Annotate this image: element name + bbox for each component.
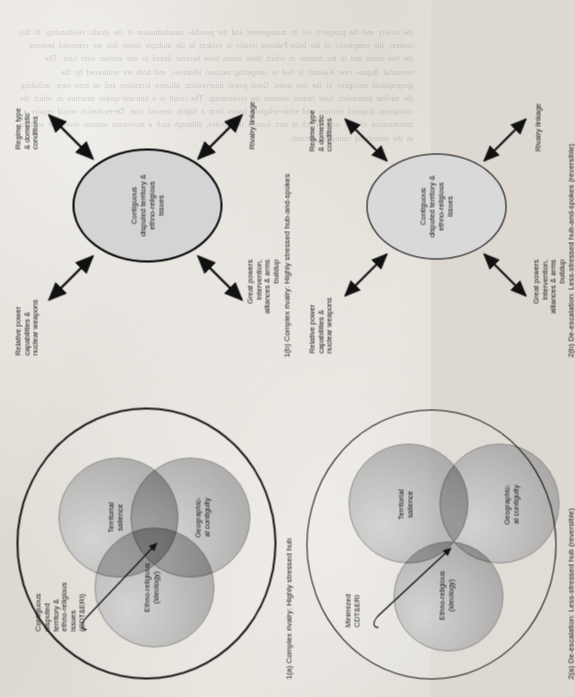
spoke-label-great-powers: Great powers intervention, alliances & a…	[246, 259, 281, 357]
cdt-leader-line	[300, 389, 570, 689]
panel-1a-hub-label: Contiguous disputed territory & ethno-re…	[34, 501, 87, 631]
panel-2a-caption: 2(a) De-escalation: Less-stressed hub (r…	[566, 508, 575, 679]
spoke-label-relative-power: Relative power capabilities & nuclear we…	[308, 257, 334, 353]
circle-label-territorial-salience: Territorial salience	[107, 484, 124, 550]
panel-2a-venn: Minimized CDT&ERI Ethno-religious (ideol…	[300, 389, 570, 689]
spoke-label-relative-power: Relative power capabilities & nuclear we…	[14, 259, 40, 355]
panel-1b-hub: Contiguous disputed territory & ethno-re…	[72, 148, 222, 262]
panel-1b-hub-and-spokes: Contiguous disputed territory & ethno-re…	[10, 57, 280, 357]
circle-label-ethno-religious: Ethno-religious (ideology)	[143, 541, 160, 633]
panel-2b-caption: 2(b) De-escalation: Less-stressed hub-an…	[566, 143, 575, 357]
spoke-label-rivalry-linkage: Rivalry linkage	[248, 59, 257, 149]
panel-1a-caption: 1(a) Complex rivalry: Highly stressed hu…	[284, 538, 293, 679]
circle-label-geographical-contiguity: Geographic- al contiguity	[503, 469, 520, 539]
panel-1a-venn: Contiguous disputed territory & ethno-re…	[10, 389, 280, 689]
circle-label-territorial-salience: Territorial salience	[397, 471, 414, 537]
spoke-label-rivalry-linkage: Rivalry linkage	[534, 61, 543, 151]
spoke-label-great-powers: Great powers intervention, alliances & a…	[532, 259, 567, 357]
spoke-label-regime-type: Regime type & domestic conditions	[14, 59, 40, 149]
panel-2b-hub-and-spokes: Contiguous disputed territory & ethno-re…	[300, 57, 570, 357]
circle-label-ethno-religious: Ethno-religious (ideology)	[438, 549, 455, 641]
panel-2b-hub-label: Contiguous disputed territory & ethno-re…	[418, 175, 455, 237]
panel-1b-hub-label: Contiguous disputed territory & ethno-re…	[129, 174, 166, 236]
spoke-label-regime-type: Regime type & domestic conditions	[308, 61, 334, 151]
panel-2a-hub-label: Minimized CDT&ERI	[344, 507, 362, 627]
panel-2b-hub: Contiguous disputed territory & ethno-re…	[366, 153, 506, 259]
panel-1b-caption: 1(b) Complex rivalry: Highly stressed hu…	[282, 173, 291, 357]
circle-label-geographical-contiguity: Geographic- al contiguity	[194, 482, 211, 552]
